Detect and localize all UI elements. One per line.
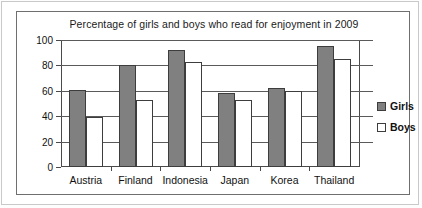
chart-frame: Percentage of girls and boys who read fo… xyxy=(16,11,410,195)
y-axis-tick-right xyxy=(359,65,373,66)
y-axis-tick xyxy=(56,91,61,92)
x-axis-label-thailand: Thailand xyxy=(314,174,354,186)
plot-area: 020406080100AustriaFinlandIndonesiaJapan… xyxy=(61,40,359,167)
y-axis-label: 100 xyxy=(36,35,53,46)
bar-austria-girls xyxy=(69,90,86,167)
x-axis-label-finland: Finland xyxy=(118,174,152,186)
bar-thailand-girls xyxy=(317,46,334,167)
gridline xyxy=(61,65,359,66)
bar-korea-boys xyxy=(285,91,302,167)
legend-swatch-icon xyxy=(377,123,386,132)
x-axis-tick xyxy=(160,167,161,171)
bar-japan-girls xyxy=(218,93,235,167)
y-axis-tick xyxy=(56,65,61,66)
y-axis-label: 60 xyxy=(42,85,53,96)
y-axis-tick xyxy=(56,167,61,168)
x-axis-tick xyxy=(111,167,112,171)
y-axis-tick-right xyxy=(359,142,373,143)
bar-japan-boys xyxy=(235,100,252,167)
legend-item-girls[interactable]: Girls xyxy=(377,100,422,112)
y-axis-tick xyxy=(56,142,61,143)
y-axis-label: 0 xyxy=(47,162,53,173)
legend-label: Boys xyxy=(390,121,416,133)
bar-thailand-boys xyxy=(334,59,351,167)
bar-austria-boys xyxy=(86,117,103,167)
x-axis-label-korea: Korea xyxy=(270,174,298,186)
legend-label: Girls xyxy=(390,100,414,112)
y-axis-label: 40 xyxy=(42,111,53,122)
y-axis-tick-right xyxy=(359,116,373,117)
screenshot-page: Percentage of girls and boys who read fo… xyxy=(0,0,422,208)
y-axis-label: 20 xyxy=(42,136,53,147)
chart-title: Percentage of girls and boys who read fo… xyxy=(17,18,411,30)
x-axis-label-austria: Austria xyxy=(69,174,102,186)
x-axis-tick xyxy=(260,167,261,171)
y-axis-tick-right xyxy=(359,40,373,41)
bar-korea-girls xyxy=(268,88,285,167)
bar-indonesia-girls xyxy=(168,50,185,167)
bar-indonesia-boys xyxy=(185,62,202,167)
y-axis-tick-right xyxy=(359,91,373,92)
y-axis-line xyxy=(61,40,62,167)
y-axis-tick xyxy=(56,116,61,117)
legend-item-boys[interactable]: Boys xyxy=(377,121,422,133)
gridline xyxy=(61,116,359,117)
bar-finland-boys xyxy=(136,100,153,167)
legend-swatch-icon xyxy=(377,102,386,111)
chart-legend: GirlsBoys xyxy=(377,100,422,142)
plot-inner: 020406080100AustriaFinlandIndonesiaJapan… xyxy=(61,40,359,167)
x-axis-label-japan: Japan xyxy=(221,174,250,186)
gridline xyxy=(61,40,359,41)
x-axis-label-indonesia: Indonesia xyxy=(162,174,208,186)
page-border: Percentage of girls and boys who read fo… xyxy=(1,1,419,205)
y-axis-tick xyxy=(56,40,61,41)
x-axis-tick xyxy=(210,167,211,171)
x-axis-tick xyxy=(309,167,310,171)
bar-finland-girls xyxy=(119,65,136,167)
gridline xyxy=(61,142,359,143)
y-axis-label: 80 xyxy=(42,60,53,71)
gridline xyxy=(61,91,359,92)
plot-right-edge xyxy=(359,40,360,167)
